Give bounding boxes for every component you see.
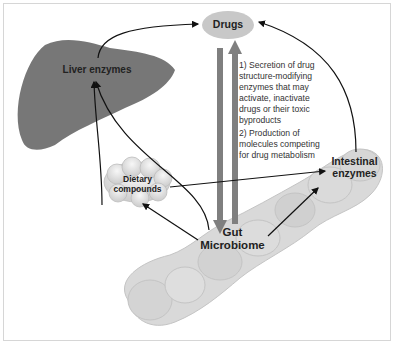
annotation-point1: 1) Secretion of drug structure-modifying… <box>239 60 314 126</box>
note-line: structure-modifying <box>239 71 314 82</box>
note-line: for drug metabolism <box>239 150 320 161</box>
note-line: 1) Secretion of drug <box>239 60 314 71</box>
note-line: drugs or their toxic <box>239 104 314 115</box>
liver-enzymes-label: Liver enzymes <box>52 64 142 76</box>
gut-line1: Gut <box>195 226 270 239</box>
intestinal-enzymes-label: Intestinal enzymes <box>322 155 387 179</box>
thick-arrows <box>213 40 242 234</box>
note-line: activate, inactivate <box>239 93 314 104</box>
dietary-compounds-label: Dietary compounds <box>105 175 170 195</box>
note-line: 2) Production of <box>239 128 320 139</box>
note-line: enzymes that may <box>239 82 314 93</box>
drugs-label: Drugs <box>203 18 253 30</box>
note-line: byproducts <box>239 115 314 126</box>
liver-shape <box>18 40 175 150</box>
note-line: molecules competing <box>239 139 320 150</box>
gut-line2: Microbiome <box>195 239 270 252</box>
dietary-line2: compounds <box>105 185 170 195</box>
intestinal-line2: enzymes <box>322 167 387 179</box>
intestinal-line1: Intestinal <box>322 155 387 167</box>
annotation-point2: 2) Production of molecules competing for… <box>239 128 320 161</box>
gut-microbiome-label: Gut Microbiome <box>195 226 270 252</box>
